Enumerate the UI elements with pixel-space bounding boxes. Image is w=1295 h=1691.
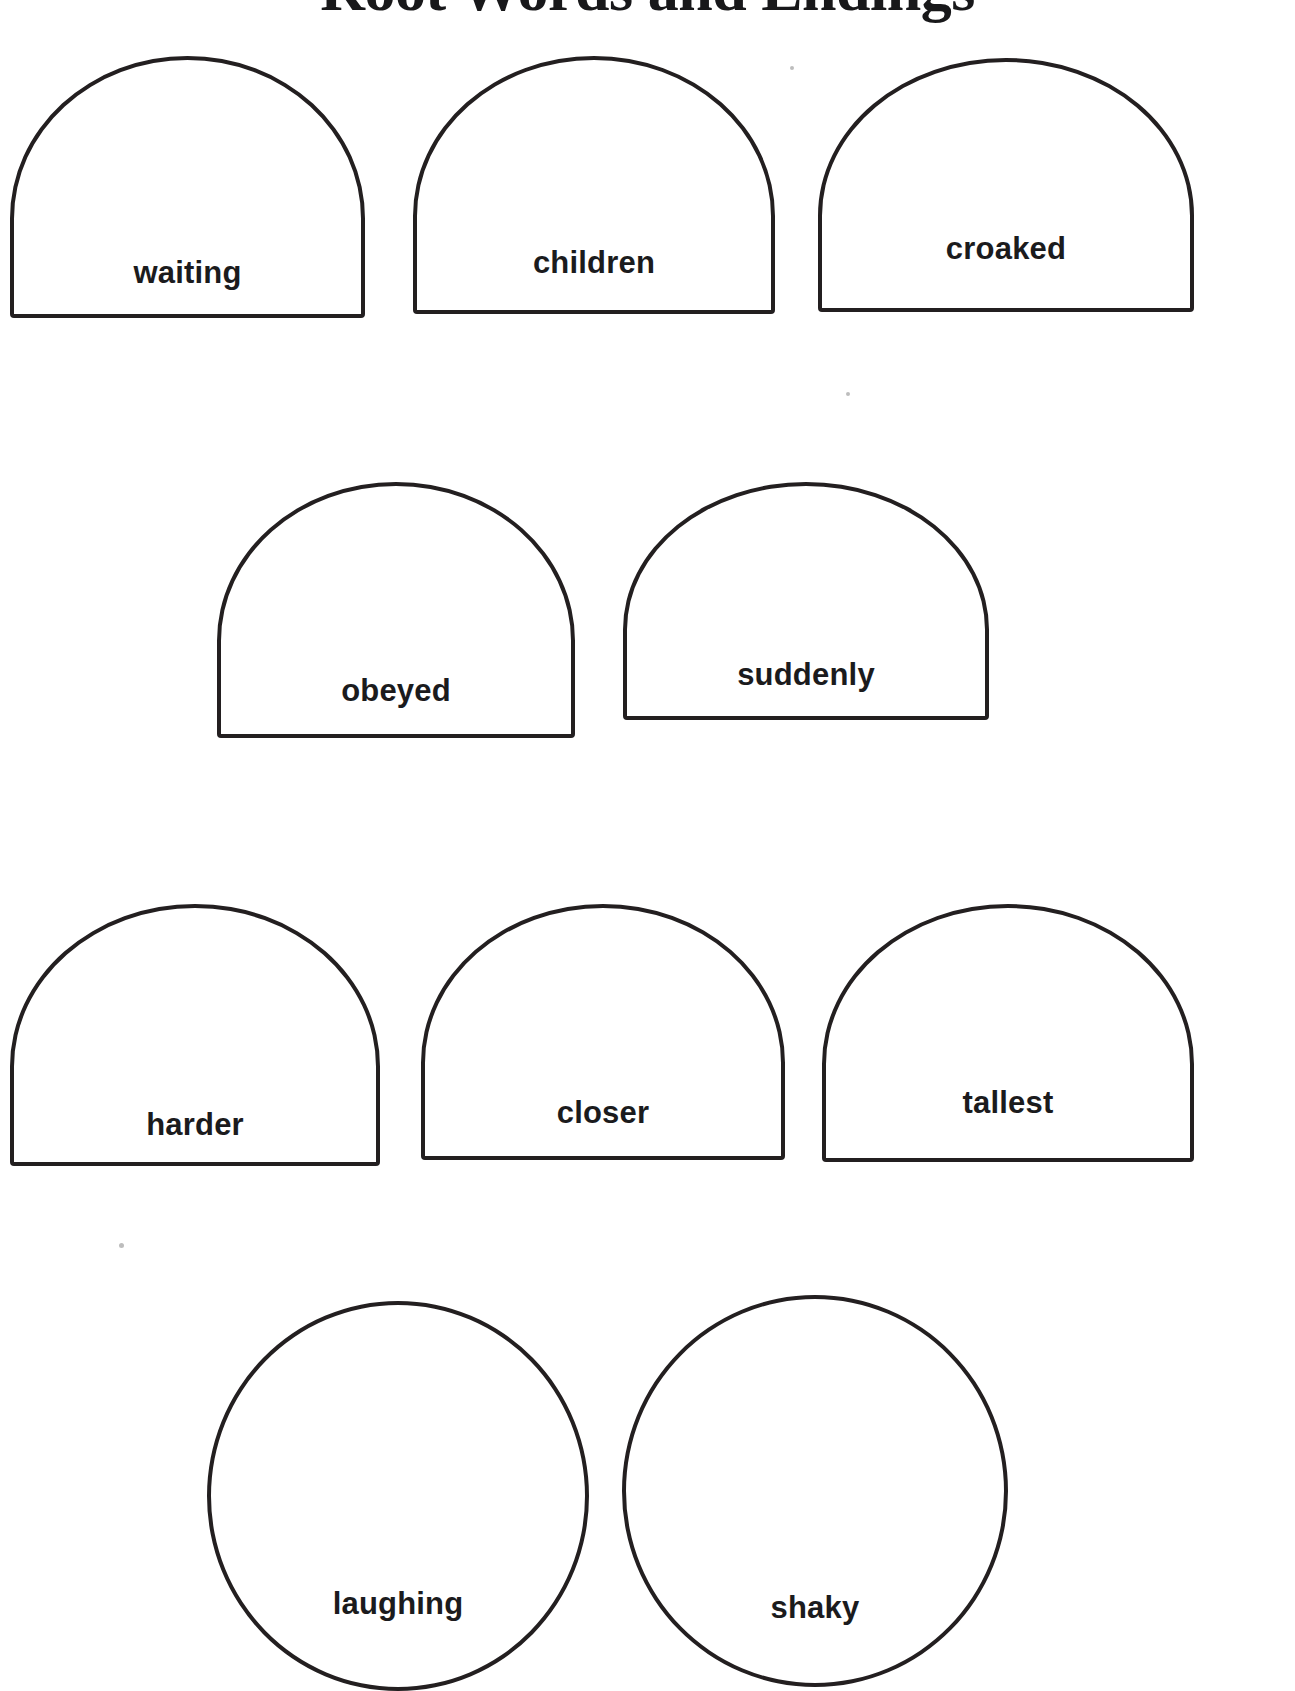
word-label: shaky (771, 1592, 860, 1623)
word-shape-row-4: laughing shaky (0, 1301, 1295, 1679)
word-shape-suddenly[interactable]: suddenly (623, 482, 989, 720)
scan-speckle (846, 392, 850, 396)
word-shape-tallest[interactable]: tallest (822, 904, 1194, 1162)
word-shape-row-2: obeyed suddenly (0, 482, 1295, 752)
page-title: Root Words and Endings (0, 0, 1295, 25)
word-shape-obeyed[interactable]: obeyed (217, 482, 575, 738)
word-label: harder (146, 1109, 244, 1140)
word-shape-closer[interactable]: closer (421, 904, 785, 1160)
word-label: laughing (333, 1588, 464, 1619)
word-label: waiting (133, 257, 241, 288)
word-shape-harder[interactable]: harder (10, 904, 380, 1166)
word-shape-children[interactable]: children (413, 56, 775, 314)
word-shape-row-3: harder closer tallest (0, 904, 1295, 1174)
word-label: suddenly (737, 659, 875, 690)
word-shape-croaked[interactable]: croaked (818, 58, 1194, 312)
word-label: obeyed (341, 675, 451, 706)
word-label: croaked (946, 233, 1066, 264)
word-shape-row-1: waiting children croaked (0, 56, 1295, 326)
word-label: children (533, 247, 655, 278)
scan-speckle (119, 1243, 124, 1248)
word-shape-waiting[interactable]: waiting (10, 56, 365, 318)
word-label: tallest (963, 1087, 1054, 1118)
word-shape-laughing[interactable]: laughing (207, 1301, 589, 1691)
word-label: closer (557, 1097, 650, 1128)
word-shape-shaky[interactable]: shaky (622, 1295, 1008, 1687)
